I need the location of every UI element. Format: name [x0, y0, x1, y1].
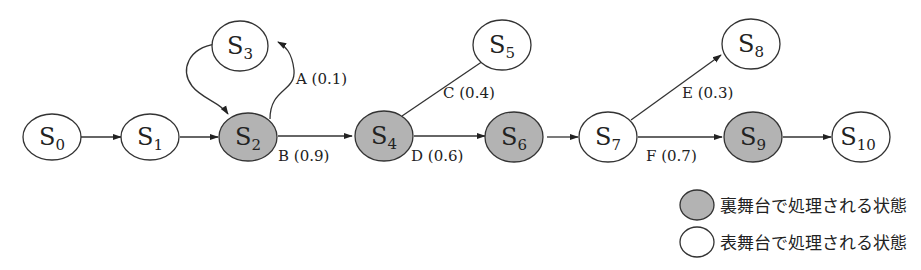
node-s8: S8 [722, 19, 780, 69]
node-s1: S1 [121, 114, 179, 160]
node-s10: S10 [832, 112, 890, 162]
node-s6: S6 [485, 112, 543, 162]
legend-item-frontstage: 表舞台で処理される状態 [680, 227, 907, 257]
edge-label-e: E (0.3) [682, 84, 733, 102]
edge-label-d: D (0.6) [411, 147, 463, 165]
node-s9: S9 [724, 112, 782, 162]
edge-label-f: F (0.7) [646, 147, 697, 165]
legend-swatch-frontstage-icon [680, 227, 714, 257]
edge-label-a: A (0.1) [295, 70, 347, 88]
edge-label-c: C (0.4) [443, 84, 495, 102]
edge-label-b: B (0.9) [278, 147, 329, 165]
legend-label-frontstage: 表舞台で処理される状態 [720, 233, 907, 253]
legend-label-backstage: 裏舞台で処理される状態 [720, 196, 907, 216]
legend-item-backstage: 裏舞台で処理される状態 [680, 190, 907, 220]
node-s7: S7 [579, 112, 637, 162]
node-s2: S2 [219, 113, 277, 161]
node-s5: S5 [473, 20, 531, 70]
edge-s2-s3 [270, 42, 294, 119]
node-s0: S0 [23, 114, 81, 160]
legend: 裏舞台で処理される状態 表舞台で処理される状態 [680, 190, 907, 257]
state-transition-diagram: A (0.1) B (0.9) C (0.4) D (0.6) E (0.3) … [0, 0, 921, 270]
node-s4: S4 [355, 111, 413, 161]
legend-swatch-backstage-icon [680, 190, 714, 220]
node-s3: S3 [212, 21, 268, 71]
